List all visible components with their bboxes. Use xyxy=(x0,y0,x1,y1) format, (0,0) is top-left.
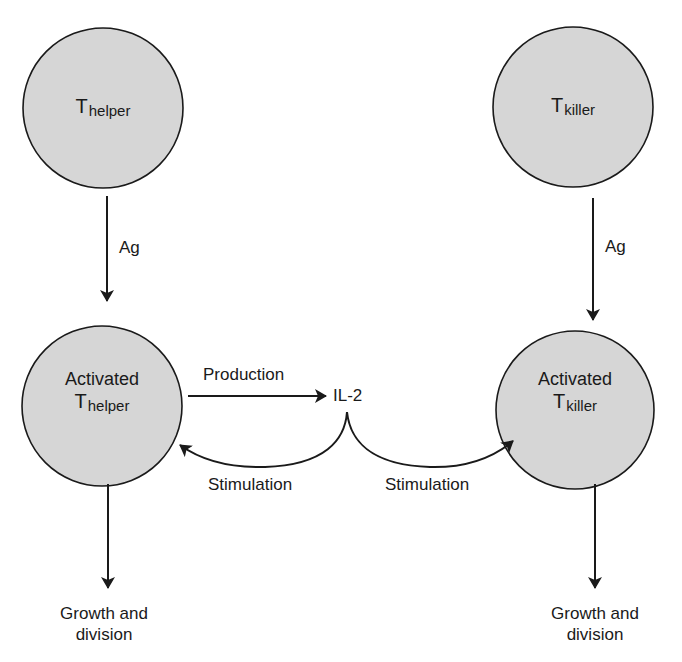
activated-t-killer-sub: killer xyxy=(566,397,597,414)
activated-t-killer-label: Activated Tkiller xyxy=(515,368,635,417)
il2-label: IL-2 xyxy=(333,386,362,406)
production-label: Production xyxy=(203,365,284,385)
stimulation-label-right: Stimulation xyxy=(385,475,469,495)
growth-left-line1: Growth and xyxy=(34,603,174,624)
growth-label-right: Growth and division xyxy=(525,603,665,645)
activated-t-killer-main: T xyxy=(553,390,565,412)
activated-t-helper-label: Activated Thelper xyxy=(42,368,162,417)
growth-right-line1: Growth and xyxy=(525,603,665,624)
activated-t-helper-sub: helper xyxy=(88,397,130,414)
stimulation-arrow-left xyxy=(180,412,347,467)
stimulation-arrow-right xyxy=(347,412,513,467)
stimulation-label-left: Stimulation xyxy=(208,475,292,495)
t-helper-label: Thelper xyxy=(43,95,163,122)
activated-t-helper-main: T xyxy=(75,390,87,412)
t-helper-sub: helper xyxy=(89,102,131,119)
t-killer-main: T xyxy=(551,94,563,116)
activated-t-helper-prefix: Activated xyxy=(42,368,162,390)
ag-label-left: Ag xyxy=(119,238,140,258)
growth-right-line2: division xyxy=(525,624,665,645)
t-killer-sub: killer xyxy=(564,101,595,118)
growth-left-line2: division xyxy=(34,624,174,645)
t-killer-label: Tkiller xyxy=(513,94,633,121)
t-helper-main: T xyxy=(76,95,88,117)
ag-label-right: Ag xyxy=(605,237,626,257)
growth-label-left: Growth and division xyxy=(34,603,174,645)
activated-t-killer-prefix: Activated xyxy=(515,368,635,390)
